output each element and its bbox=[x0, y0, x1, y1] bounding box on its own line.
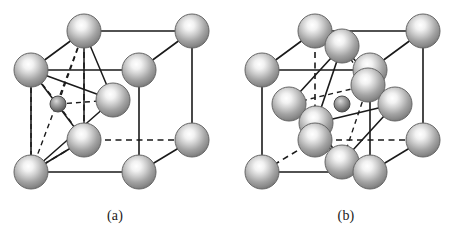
atom-front-top-right bbox=[122, 53, 156, 87]
atom-face-center-front bbox=[96, 83, 130, 117]
panel-b-caption: (b) bbox=[231, 208, 461, 224]
atom-back-top-right bbox=[406, 14, 440, 48]
atom-front-top-left bbox=[14, 53, 48, 87]
lattice-spheres-a bbox=[14, 14, 209, 189]
interstitial-atom-a bbox=[50, 96, 66, 112]
panel-b-diagram bbox=[231, 0, 461, 200]
interstitial-atom-b bbox=[334, 96, 350, 112]
atom-back-bottom-left bbox=[67, 123, 101, 157]
atom-back-top-right bbox=[175, 14, 209, 48]
atom-back-bottom-right bbox=[175, 123, 209, 157]
atom-back-top-left bbox=[67, 14, 101, 48]
atom-front-top-left bbox=[245, 53, 279, 87]
panel-a-diagram bbox=[0, 0, 230, 200]
atom-front-bottom-left bbox=[245, 155, 279, 189]
atom-back-bottom-left bbox=[298, 123, 332, 157]
panel-b-octahedral-site: (b) bbox=[231, 0, 461, 228]
figure-root: (a) bbox=[0, 0, 461, 228]
panel-a-tetrahedral-site: (a) bbox=[0, 0, 230, 228]
atom-front-bottom-right bbox=[122, 155, 156, 189]
atom-face-center-top bbox=[325, 29, 359, 63]
atom-back-bottom-right bbox=[406, 123, 440, 157]
atom-face-center-right bbox=[378, 87, 412, 121]
atom-front-bottom-left bbox=[14, 155, 48, 189]
atom-front-bottom-right bbox=[353, 155, 387, 189]
panel-a-caption: (a) bbox=[0, 208, 230, 224]
